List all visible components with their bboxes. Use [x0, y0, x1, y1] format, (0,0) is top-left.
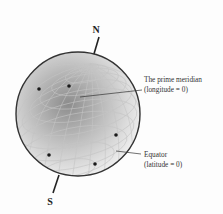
- point: [93, 162, 97, 166]
- point: [37, 87, 41, 91]
- equator-label-line1: Equator: [144, 150, 168, 159]
- globe-diagram: N S The prime meridian (longitude = 0) E…: [0, 0, 223, 214]
- north-label: N: [92, 24, 100, 35]
- axis-south: [53, 175, 59, 193]
- globe-svg: N S The prime meridian (longitude = 0) E…: [0, 0, 223, 214]
- prime-meridian-label-line1: The prime meridian: [144, 75, 202, 84]
- equator-label-line2: (latitude = 0): [144, 160, 183, 169]
- prime-meridian-label-line2: (longitude = 0): [144, 85, 188, 94]
- south-label: S: [47, 196, 53, 207]
- point: [114, 133, 118, 137]
- point: [47, 153, 51, 157]
- point: [67, 84, 71, 88]
